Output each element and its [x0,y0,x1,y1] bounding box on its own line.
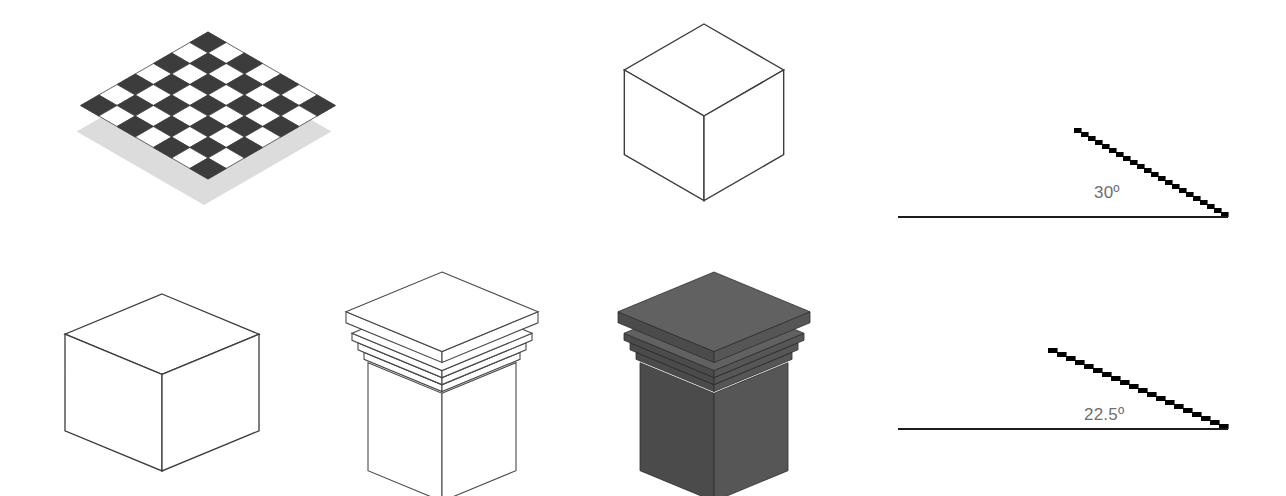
staircase-step [1102,144,1110,149]
staircase-step [1081,132,1089,137]
dimetric-cube-svg [50,272,280,467]
pedestal-wireframe-group [346,272,538,496]
staircase-step [1111,376,1121,381]
staircase-step [1156,396,1166,401]
staircase-step [1074,128,1082,133]
staircase-step [1130,160,1138,165]
staircase-step [1102,372,1112,377]
staircase-step [1151,172,1159,177]
staircase-step [1144,168,1152,173]
staircase-step [1066,356,1076,361]
staircase-steps-225 [1048,348,1229,429]
checkerboard-tiles [81,32,336,179]
angle-diagram-225-figure [880,268,1250,448]
staircase-step [1088,136,1096,141]
staircase-step [1165,400,1175,405]
staircase-step [1129,384,1139,389]
staircase-step [1193,196,1201,201]
staircase-step [1210,420,1220,425]
staircase-step [1093,368,1103,373]
staircase-step [1172,184,1180,189]
angle-30-svg [880,16,1250,236]
staircase-step [1200,200,1208,205]
staircase-step [1207,204,1215,209]
staircase-step [1116,152,1124,157]
isometric-cube-figure [596,6,826,211]
staircase-step [1057,352,1067,357]
cube-wireframe-group-flat [65,294,259,471]
staircase-step [1183,408,1193,413]
staircase-step [1137,164,1145,169]
angle-label-30: 30º [1094,183,1120,203]
pedestal-shaded-svg [594,258,834,473]
pedestal-wireframe-svg [322,258,562,473]
staircase-step [1095,140,1103,145]
angle-diagram-30-figure [880,16,1250,236]
staircase-step [1165,180,1173,185]
figure-canvas: 30º 22.5º [0,0,1286,496]
staircase-step [1158,176,1166,181]
staircase-step [1192,412,1202,417]
staircase-step [1075,360,1085,365]
checkerboard-svg [170,14,500,204]
dimetric-cube-figure [50,272,280,467]
isometric-checkerboard-figure [170,14,500,204]
staircase-step [1186,192,1194,197]
staircase-step [1174,404,1184,409]
pedestal-shaded-group [618,272,810,496]
staircase-step [1048,348,1058,353]
staircase-step [1120,380,1130,385]
staircase-step [1147,392,1157,397]
angle-label-22-5: 22.5º [1084,405,1124,425]
staircase-step [1084,364,1094,369]
staircase-steps-30 [1074,128,1229,217]
isometric-cube-svg [596,6,826,211]
staircase-step [1138,388,1148,393]
staircase-step [1109,148,1117,153]
pedestal-wireframe-figure [322,258,562,473]
angle-225-svg [880,268,1250,448]
pedestal-shaded-figure [594,258,834,473]
staircase-step [1179,188,1187,193]
staircase-step [1214,208,1222,213]
staircase-step [1201,416,1211,421]
staircase-step [1123,156,1131,161]
cube-wireframe-group [624,24,783,201]
